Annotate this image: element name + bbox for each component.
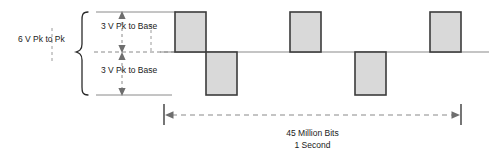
peak-to-peak-brace	[76, 12, 88, 95]
peak-to-peak-label: 6 V Pk to Pk	[18, 35, 65, 44]
pulse-negative-2	[206, 52, 237, 95]
upper-amplitude-label: 3 V Pk to Base	[101, 22, 157, 31]
span-arrowhead-left	[165, 111, 174, 119]
time-span-caption: 45 Million Bits 1 Second	[164, 127, 461, 151]
waveform-diagram: 6 V Pk to Pk 3 V Pk to Base 3 V Pk to Ba…	[0, 0, 489, 165]
span-time-label: 1 Second	[164, 139, 461, 151]
pulse-positive-1	[175, 12, 206, 52]
time-span-measure	[164, 104, 461, 125]
span-arrowhead-right	[452, 111, 461, 119]
pulse-positive-5	[430, 12, 461, 52]
span-bits-label: 45 Million Bits	[164, 127, 461, 139]
pulse-positive-3	[290, 12, 321, 52]
pulse-negative-4	[355, 52, 386, 95]
lower-amplitude-label: 3 V Pk to Base	[101, 66, 157, 75]
upper-amplitude-arrow	[118, 11, 125, 53]
